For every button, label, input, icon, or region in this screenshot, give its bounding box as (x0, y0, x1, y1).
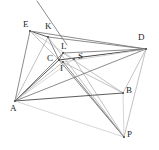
vertex-D (145, 48, 147, 50)
point-label-D: D (138, 33, 145, 42)
segment-A-to-L (15, 53, 63, 101)
segment-B-to-P (123, 93, 124, 137)
point-label-L: L (61, 42, 67, 51)
vertex-P (123, 136, 125, 138)
point-label-A: A (10, 104, 17, 113)
segment-S-to-P (74, 59, 124, 137)
vertex-L (62, 52, 64, 54)
segment-A-to-P (15, 101, 124, 137)
point-label-P: P (127, 130, 132, 139)
point-label-S: S (78, 52, 83, 61)
segment-C-to-B (59, 60, 123, 93)
segment-layer (15, 1, 146, 137)
segment-K-to-A (15, 37, 48, 101)
vertex-K (47, 36, 49, 38)
vertex-C (58, 59, 60, 61)
point-label-B: B (126, 86, 132, 95)
point-label-C: C (47, 54, 53, 63)
geometry-diagram: EKDLCSIBAP (0, 0, 159, 150)
segment-S-to-A (15, 59, 74, 101)
vertex-E (29, 30, 31, 32)
point-label-K: K (45, 22, 52, 31)
segment-E-to-D (30, 31, 146, 49)
vertex-S (73, 58, 75, 60)
vertex-B (122, 92, 124, 94)
point-label-E: E (23, 20, 29, 29)
vertex-A (14, 100, 16, 102)
point-label-I: I (60, 64, 63, 73)
